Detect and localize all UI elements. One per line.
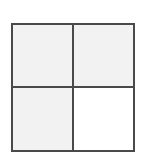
cell-bottom-right	[74, 88, 133, 150]
cell-top-right	[74, 25, 133, 88]
cell-bottom-left	[13, 88, 74, 150]
cell-top-left	[13, 25, 74, 88]
quadrant-grid	[11, 23, 135, 152]
